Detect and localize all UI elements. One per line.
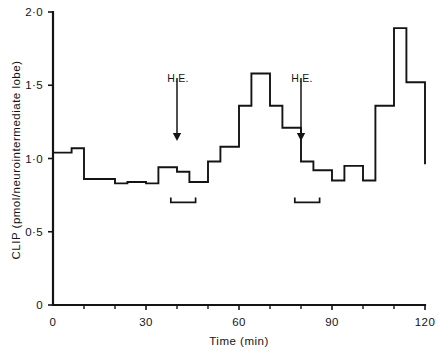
x-tick-label-4: 120 [415, 316, 435, 328]
x-tick-label-3: 90 [325, 316, 339, 328]
x-tick-label-group: 0306090120 [50, 316, 436, 328]
data-series-clip-release [53, 28, 425, 183]
x-tick-label-1: 30 [139, 316, 153, 328]
he-marker-label-1: H.E. [167, 72, 189, 84]
x-tick-label-0: 0 [50, 316, 57, 328]
he-marker-label-2: H.E. [291, 72, 313, 84]
he-arrow-head-1 [173, 133, 181, 141]
y-tick-label-3: 1·5 [25, 79, 43, 91]
annotation-layer [171, 78, 320, 203]
he-arrow-1 [173, 78, 181, 141]
y-tick-label-1: 0·5 [25, 226, 43, 238]
chart-figure: 00·51·01·52·0 0306090120 Time (min) CLIP… [0, 0, 442, 354]
y-tick-label-0: 0 [36, 299, 43, 311]
x-tick-label-2: 60 [232, 316, 246, 328]
step-line-chart: 00·51·01·52·0 0306090120 Time (min) CLIP… [0, 0, 442, 354]
he-arrow-head-2 [297, 133, 305, 141]
treatment-bracket-1 [171, 197, 196, 202]
y-axis-title: CLIP (pmol/neurointermediate lobe) [10, 61, 22, 260]
y-tick-label-2: 1·0 [25, 153, 43, 165]
y-tick-label-group: 00·51·01·52·0 [25, 6, 43, 311]
he-arrow-2 [297, 78, 305, 141]
x-axis-title: Time (min) [209, 335, 269, 347]
y-tick-label-4: 2·0 [25, 6, 43, 18]
treatment-bracket-2 [295, 197, 320, 202]
axis-group [53, 12, 425, 305]
